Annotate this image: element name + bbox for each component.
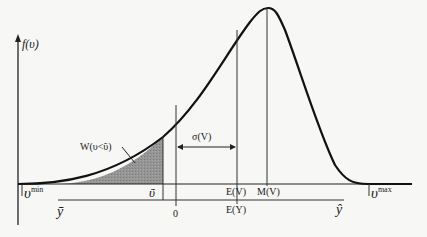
density-plot xyxy=(0,0,427,237)
sigma-arrow-left-icon xyxy=(177,144,183,150)
v-tilde-label: ῦ xyxy=(149,186,155,199)
zero-label: 0 xyxy=(173,209,178,219)
v-max-label: υmax xyxy=(371,186,392,201)
y-left-label: ȳ xyxy=(57,205,63,219)
ey-label: E(Y) xyxy=(226,205,246,215)
y-right-label: ŷ xyxy=(336,203,342,217)
shaded-region-label: W(υ<ῦ) xyxy=(80,142,112,152)
v-min-sup: min xyxy=(31,185,43,194)
y-axis-label: f(υ) xyxy=(22,38,39,50)
v-max-base: υ xyxy=(371,185,378,201)
sigma-label: σ(V) xyxy=(192,132,211,142)
v-min-label: υmin xyxy=(24,186,43,201)
v-max-sup: max xyxy=(378,185,392,194)
sigma-arrow-right-icon xyxy=(230,144,236,150)
ev-label: E(V) xyxy=(226,187,246,197)
v-min-base: υ xyxy=(24,185,31,201)
y-axis-arrow-icon xyxy=(15,34,21,42)
density-curve xyxy=(18,8,412,184)
mv-label: M(V) xyxy=(257,187,280,197)
